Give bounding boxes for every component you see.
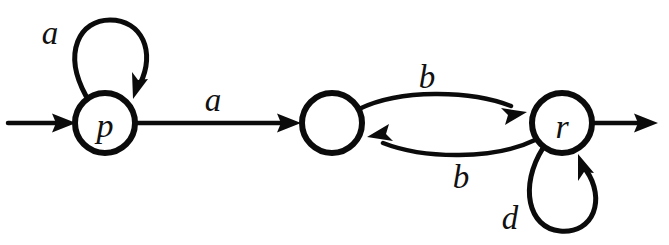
automaton-diagram: p r a a b b d [0,0,669,245]
r-to-q-curve [383,140,535,155]
edge-label-p-self-loop: a [42,15,59,51]
state-label-p: p [95,107,114,144]
edge-label-r-self-loop: d [502,200,519,236]
state-circle-q[interactable] [302,93,362,153]
r-to-q-arrow-head [367,124,393,141]
p-self-loop-edge [75,20,148,99]
r-self-loop-edge [529,148,595,231]
edge-label-q-to-r: b [419,59,436,95]
edge-label-p-to-q: a [205,82,222,118]
r-to-q-edge [367,124,535,155]
automaton-canvas: p r a a b b d [0,0,669,245]
start-arrow [8,114,76,133]
accept-arrow [592,114,658,133]
edge-label-r-to-q: b [453,159,470,195]
q-to-r-edge [359,94,527,125]
state-label-r: r [555,108,569,145]
r-self-loop-path [529,148,595,231]
q-to-r-curve [359,94,511,109]
q-to-r-arrow-head [501,108,527,125]
